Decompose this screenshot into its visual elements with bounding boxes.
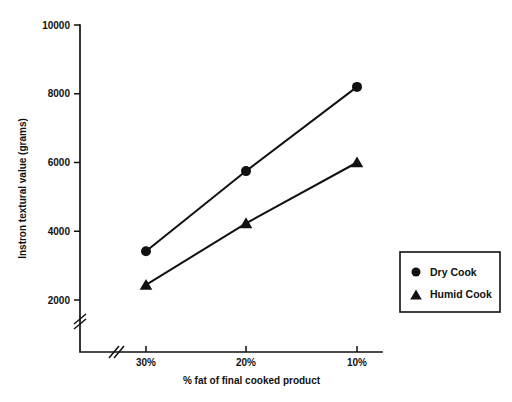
x-tick-label: 10% [347,357,367,368]
legend-item-label: Humid Cook [430,288,492,300]
x-tick-label: 20% [236,357,256,368]
legend-item-label: Dry Cook [430,266,477,278]
y-tick-label: 6000 [48,157,71,168]
data-point-humid-cook [140,279,153,290]
data-point-dry-cook [141,246,151,256]
series-line-humid-cook [146,163,357,285]
legend-box [400,252,500,312]
y-tick-label: 2000 [48,295,71,306]
x-axis-title: % fat of final cooked product [183,375,321,386]
instron-texture-line-chart: 20004000600080001000030%20%10%% fat of f… [0,0,512,402]
y-tick-label: 4000 [48,226,71,237]
y-tick-label: 10000 [42,20,70,31]
legend-triangle-marker-icon [410,290,422,300]
chart-figure: 20004000600080001000030%20%10%% fat of f… [0,0,512,402]
y-axis-title: Instron textural value (grams) [17,118,28,259]
series-line-dry-cook [146,87,357,251]
chart-axes [80,25,382,352]
data-point-humid-cook [351,157,364,168]
x-tick-label: 30% [136,357,156,368]
data-point-humid-cook [240,217,253,228]
data-point-dry-cook [241,166,251,176]
y-tick-label: 8000 [48,88,71,99]
legend-circle-marker-icon [412,268,421,277]
data-point-dry-cook [352,82,362,92]
